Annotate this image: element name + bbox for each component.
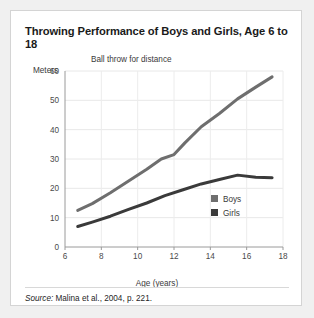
series-line-girls — [78, 175, 272, 226]
source-label: Source: — [25, 294, 53, 303]
x-tick-label: 8 — [99, 252, 104, 261]
legend-swatch-girls — [211, 209, 218, 216]
y-tick-label: 20 — [50, 184, 60, 193]
x-tick-label: 12 — [169, 252, 179, 261]
y-tick-label: 50 — [50, 96, 60, 105]
legend-label-girls: Girls — [223, 209, 240, 218]
x-tick-label: 16 — [242, 252, 252, 261]
page-title: Throwing Performance of Boys and Girls, … — [25, 25, 293, 51]
y-tick-label: 40 — [50, 126, 60, 135]
y-tick-label: 60 — [50, 67, 60, 76]
y-tick-label: 30 — [50, 155, 60, 164]
y-tick-label: 0 — [54, 243, 59, 252]
source-note: Source: Malina et al., 2004, p. 221. — [25, 294, 152, 303]
series-line-boys — [78, 77, 272, 210]
legend-swatch-boys — [211, 195, 218, 202]
source-divider — [25, 287, 289, 288]
x-tick-label: 6 — [63, 252, 68, 261]
x-tick-label: 18 — [278, 252, 288, 261]
chart-card: Throwing Performance of Boys and Girls, … — [10, 10, 302, 306]
x-tick-label: 10 — [133, 252, 143, 261]
x-tick-label: 14 — [206, 252, 216, 261]
plot-area: 0102030405060681012141618BoysGirls — [25, 61, 289, 273]
line-chart: 0102030405060681012141618BoysGirls — [25, 61, 289, 273]
legend-label-boys: Boys — [223, 195, 241, 204]
source-citation: Malina et al., 2004, p. 221. — [53, 294, 152, 303]
y-tick-label: 10 — [50, 214, 60, 223]
